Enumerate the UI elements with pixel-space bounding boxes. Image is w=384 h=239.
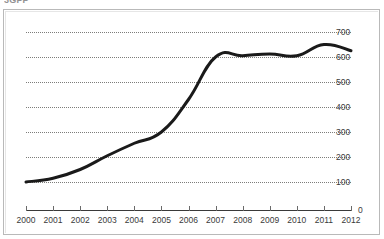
chart-screenshot: 3GPP 100200300400500600700 2000200120022…: [0, 0, 384, 239]
x-axis-label-2009: 2009: [260, 215, 279, 225]
x-axis-tick-2000: [26, 206, 27, 211]
x-axis-label-2003: 2003: [98, 215, 117, 225]
x-axis-tick-2009: [270, 206, 271, 211]
y-axis-label-200: 200: [336, 152, 350, 162]
y-axis-label-zero: 0: [358, 205, 363, 215]
x-axis-label-2001: 2001: [44, 215, 63, 225]
x-axis-tick-2002: [80, 206, 81, 211]
x-axis-label-2005: 2005: [152, 215, 171, 225]
x-axis-tick-2005: [161, 206, 162, 211]
x-axis-tick-2012: [351, 206, 352, 211]
chart-frame: 100200300400500600700 200020012002200320…: [3, 9, 380, 235]
x-axis-tick-2008: [243, 206, 244, 211]
y-axis-label-100: 100: [336, 177, 350, 187]
x-axis-label-2007: 2007: [206, 215, 225, 225]
x-axis-label-2000: 2000: [17, 215, 36, 225]
x-axis-tick-2011: [324, 206, 325, 211]
x-axis-tick-2006: [189, 206, 190, 211]
x-axis-label-2010: 2010: [287, 215, 306, 225]
x-axis-tick-2010: [297, 206, 298, 211]
x-axis-tick-2003: [107, 206, 108, 211]
y-axis-label-400: 400: [336, 102, 350, 112]
data-line-path: [26, 44, 351, 182]
x-axis-tick-2001: [53, 206, 54, 211]
x-axis-label-2008: 2008: [233, 215, 252, 225]
x-axis-label-2004: 2004: [125, 215, 144, 225]
x-axis-line: [26, 210, 351, 211]
y-axis-label-300: 300: [336, 127, 350, 137]
data-line-series: [26, 32, 351, 207]
x-axis-label-2006: 2006: [179, 215, 198, 225]
x-axis-label-2002: 2002: [71, 215, 90, 225]
y-axis-label-500: 500: [336, 77, 350, 87]
x-axis-label-2012: 2012: [342, 215, 361, 225]
plot-area: [26, 32, 351, 207]
y-axis-label-700: 700: [336, 27, 350, 37]
x-axis-tick-2004: [134, 206, 135, 211]
x-axis-label-2011: 2011: [315, 215, 333, 225]
y-axis-label-600: 600: [336, 52, 350, 62]
x-axis-tick-2007: [216, 206, 217, 211]
figure-caption: 3GPP: [4, 0, 29, 5]
